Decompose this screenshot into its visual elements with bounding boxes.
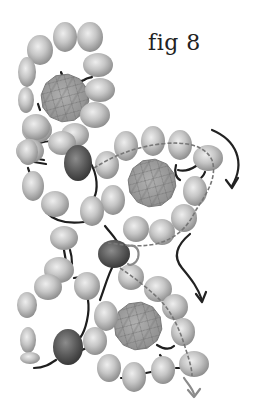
seed-bead [151, 356, 175, 384]
crystal-bead [128, 159, 176, 207]
accent-bead [53, 329, 83, 365]
seed-bead [34, 274, 62, 300]
seed-bead [80, 196, 104, 226]
seed-bead [118, 264, 144, 290]
arrow-icon [177, 234, 206, 302]
seed-bead [80, 102, 110, 128]
seed-bead [101, 185, 125, 215]
seed-bead [141, 126, 165, 156]
seed-bead [53, 22, 77, 52]
arrow-icon [184, 378, 200, 397]
seed-bead [50, 226, 78, 250]
seed-bead [18, 87, 34, 113]
seed-bead [20, 352, 40, 364]
seed-bead [22, 114, 50, 140]
thread-line [178, 166, 196, 171]
seed-bead [83, 327, 107, 355]
accent-bead [64, 145, 92, 181]
thread-line [146, 372, 151, 373]
seed-bead [83, 53, 113, 77]
seed-bead [17, 292, 37, 318]
seed-bead [18, 139, 38, 165]
seed-bead [179, 351, 209, 377]
figure-caption: fig 8 [148, 30, 201, 55]
seed-bead [95, 151, 119, 179]
bead-diagram [0, 0, 258, 403]
seed-bead [122, 362, 146, 392]
seed-bead [183, 176, 207, 206]
thread-line [157, 345, 174, 349]
seed-bead [114, 131, 138, 161]
seed-bead [18, 57, 36, 87]
seed-bead [74, 272, 100, 300]
figure-canvas: fig 8 [0, 0, 258, 403]
crystal-bead [114, 302, 162, 350]
seed-bead [85, 78, 115, 102]
thread-line [175, 165, 180, 180]
seed-bead [77, 22, 103, 52]
seed-bead [97, 354, 121, 382]
seed-bead [20, 327, 36, 353]
seed-bead [193, 145, 223, 171]
seed-bead [123, 216, 149, 242]
seed-bead [22, 171, 44, 201]
thread-line [34, 162, 46, 164]
thread-line [38, 104, 40, 110]
seed-bead [149, 219, 175, 245]
seed-bead [94, 301, 118, 331]
seed-bead [41, 191, 69, 217]
thread-line [100, 264, 114, 300]
